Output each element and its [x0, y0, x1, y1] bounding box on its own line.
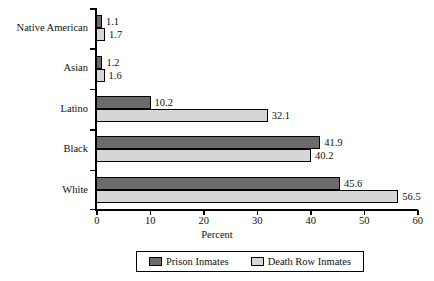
y-axis-tick — [90, 170, 95, 172]
bar-value-black-prison-inmates: 41.9 — [324, 136, 342, 149]
bar-asian-prison-inmates — [96, 56, 102, 69]
bar-black-death-row-inmates — [96, 149, 311, 162]
bar-asian-death-row-inmates — [96, 69, 105, 82]
bar-value-native-american-death-row-inmates: 1.7 — [109, 28, 122, 41]
legend-swatch-death-row-inmates — [251, 257, 264, 266]
bar-white-death-row-inmates — [96, 190, 398, 203]
x-axis-tick-label: 20 — [199, 216, 210, 227]
plot-area: 1.11.71.21.610.232.141.940.245.656.5 — [96, 8, 417, 210]
bar-value-white-death-row-inmates: 56.5 — [402, 190, 420, 203]
bar-value-white-prison-inmates: 45.6 — [344, 177, 362, 190]
category-label-text: Asian — [0, 63, 88, 74]
legend-item-prison-inmates: Prison Inmates — [149, 256, 229, 267]
category-label-native-american: Native American — [0, 13, 88, 43]
x-axis-tick-label: 60 — [413, 216, 424, 227]
bar-black-prison-inmates — [96, 136, 320, 149]
x-axis-title: Percent — [0, 229, 434, 240]
bar-value-latino-death-row-inmates: 32.1 — [272, 109, 290, 122]
category-label-latino: Latino — [0, 94, 88, 124]
bar-value-latino-prison-inmates: 10.2 — [155, 96, 173, 109]
legend-label-prison-inmates: Prison Inmates — [166, 256, 229, 267]
legend-item-death-row-inmates: Death Row Inmates — [251, 256, 351, 267]
y-axis-tick — [90, 48, 95, 50]
y-axis-tick — [90, 89, 95, 91]
category-label-black: Black — [0, 134, 88, 164]
x-axis-tick-label: 10 — [145, 216, 156, 227]
bar-native-american-prison-inmates — [96, 15, 102, 28]
bar-value-asian-death-row-inmates: 1.6 — [109, 69, 122, 82]
category-label-asian: Asian — [0, 54, 88, 84]
bar-value-asian-prison-inmates: 1.2 — [106, 56, 119, 69]
x-axis-tick-label: 40 — [306, 216, 317, 227]
bar-native-american-death-row-inmates — [96, 28, 105, 41]
legend-label-death-row-inmates: Death Row Inmates — [268, 256, 351, 267]
bar-value-black-death-row-inmates: 40.2 — [315, 149, 333, 162]
category-label-text: Latino — [0, 104, 88, 115]
y-axis-tick — [90, 8, 95, 10]
x-axis-tick-label: 0 — [94, 216, 99, 227]
category-label-text: White — [0, 185, 88, 196]
category-label-text: Native American — [0, 23, 88, 34]
bar-latino-prison-inmates — [96, 96, 151, 109]
category-label-text: Black — [0, 144, 88, 155]
chart-legend: Prison Inmates Death Row Inmates — [136, 251, 364, 272]
x-axis-tick-label: 30 — [252, 216, 263, 227]
bar-chart: Native AmericanAsianLatinoBlackWhite 1.1… — [0, 0, 434, 281]
legend-swatch-prison-inmates — [149, 257, 162, 266]
bar-white-prison-inmates — [96, 177, 340, 190]
category-label-white: White — [0, 175, 88, 205]
y-axis-tick — [90, 129, 95, 131]
x-axis-tick-label: 50 — [359, 216, 370, 227]
bar-latino-death-row-inmates — [96, 109, 268, 122]
bar-value-native-american-prison-inmates: 1.1 — [106, 15, 119, 28]
